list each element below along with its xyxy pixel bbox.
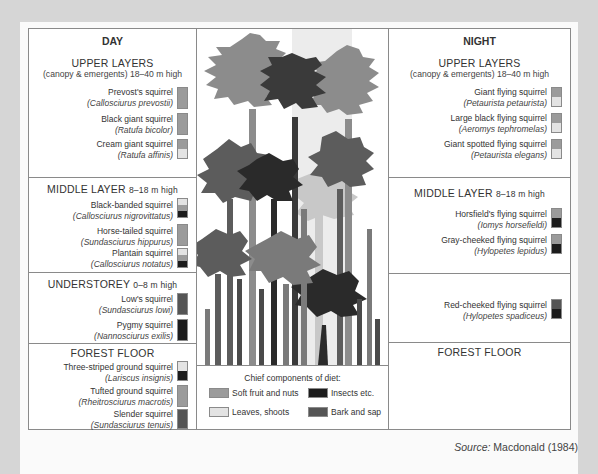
forest-illustration-panel: Chief components of diet: Soft fruit and… (197, 29, 388, 429)
scientific-name: (Rheitrosciurus macrotis) (79, 397, 173, 408)
day-title: DAY (29, 35, 196, 47)
layer-title: UPPER LAYERS (29, 57, 196, 69)
common-name: Pygmy squirrel (94, 320, 173, 331)
layer-title: FOREST FLOOR (29, 347, 196, 359)
common-name: Horse-tailed squirrel (81, 226, 173, 237)
diet-swatch (177, 224, 188, 246)
layer-title: MIDDLE LAYER 8–18 m high (29, 183, 196, 195)
scientific-name: (Callosciurus nigrovittatus) (73, 211, 173, 222)
diet-swatch (177, 248, 188, 268)
day-upper-layers: DAY UPPER LAYERS (canopy & emergents) 18… (29, 29, 196, 178)
common-name: Cream giant squirrel (96, 139, 173, 150)
common-name: Tufted ground squirrel (79, 386, 173, 397)
day-panel: DAY UPPER LAYERS (canopy & emergents) 18… (29, 29, 197, 429)
diet-swatch (177, 293, 188, 315)
scientific-name: (Hylopetes spadiceus) (444, 311, 547, 322)
diet-swatch (177, 385, 188, 407)
diagram-frame: DAY UPPER LAYERS (canopy & emergents) 18… (28, 28, 571, 430)
layer-title: MIDDLE LAYER 8–18 m high (389, 187, 570, 199)
diet-swatch (177, 113, 188, 135)
scientific-name: (Aeromys tephromelas) (451, 124, 547, 135)
day-middle-layer: MIDDLE LAYER 8–18 m high Black-banded sq… (29, 178, 196, 273)
common-name: Horsfield's flying squirrel (455, 209, 547, 220)
scientific-name: (Callosciurus notatus) (91, 259, 173, 270)
diet-swatch (551, 234, 562, 254)
scientific-name: (Nannosciurus exilis) (94, 331, 173, 342)
forest-illustration (197, 29, 388, 365)
legend-item-insects: Insects etc. (308, 388, 374, 398)
diet-swatch (177, 139, 188, 159)
scientific-name: (Sundasciurus tenuis) (91, 420, 173, 431)
diet-swatch (177, 87, 188, 109)
scientific-name: (Callosciurus prevostii) (87, 98, 173, 109)
diet-swatch (551, 139, 562, 159)
night-upper-layers: NIGHT UPPER LAYERS (canopy & emergents) … (389, 29, 570, 178)
common-name: Giant flying squirrel (463, 87, 547, 98)
diet-swatch (177, 409, 188, 429)
diet-swatch (551, 299, 562, 319)
common-name: Black giant squirrel (101, 114, 173, 125)
common-name: Large black flying squirrel (451, 113, 547, 124)
scientific-name: (Hylopetes lepidus) (441, 246, 547, 257)
common-name: Plantain squirrel (91, 248, 173, 259)
common-name: Gray-cheeked flying squirrel (441, 235, 547, 246)
common-name: Three-striped ground squirrel (63, 362, 173, 373)
diet-swatch (177, 361, 188, 381)
night-forest-floor: FOREST FLOOR (389, 343, 570, 429)
layer-height: (canopy & emergents) 18–40 m high (29, 69, 196, 79)
common-name: Slender squirrel (91, 409, 173, 420)
legend-item-leaves: Leaves, shoots (209, 407, 289, 417)
source-credit: Source: Macdonald (1984) (454, 441, 578, 453)
scientific-name: (Petaurista petaurista) (463, 98, 547, 109)
night-title: NIGHT (389, 35, 570, 47)
layer-title: UNDERSTOREY 0–8 m high (29, 278, 196, 290)
scientific-name: (Lariscus insignis) (63, 373, 173, 384)
legend-title: Chief components of diet: (197, 373, 388, 383)
common-name: Low's squirrel (99, 294, 173, 305)
day-understorey: UNDERSTOREY 0–8 m high Low's squirrel(Su… (29, 273, 196, 344)
day-forest-floor: FOREST FLOOR Three-striped ground squirr… (29, 344, 196, 429)
diet-swatch (177, 319, 188, 341)
night-panel: NIGHT UPPER LAYERS (canopy & emergents) … (388, 29, 570, 429)
common-name: Red-cheeked flying squirrel (444, 300, 547, 311)
scientific-name: (Iomys horsefieldi) (455, 220, 547, 231)
common-name: Prevost's squirrel (87, 87, 173, 98)
diet-legend: Chief components of diet: Soft fruit and… (197, 365, 388, 429)
scientific-name: (Sundasciurus hippurus) (81, 237, 173, 248)
diet-swatch (551, 208, 562, 228)
diet-swatch (551, 113, 562, 133)
scientific-name: (Ratufa affinis) (96, 150, 173, 161)
diet-swatch (177, 198, 188, 218)
legend-item-bark: Bark and sap (308, 407, 381, 417)
common-name: Giant spotted flying squirrel (444, 139, 547, 150)
layer-title: FOREST FLOOR (389, 346, 570, 358)
forest-trees-graphic (197, 29, 388, 365)
scientific-name: (Ratufa bicolor) (101, 125, 173, 136)
common-name: Black-banded squirrel (73, 200, 173, 211)
diet-swatch (551, 87, 562, 107)
night-middle-layer: MIDDLE LAYER 8–18 m high Horsfield's fly… (389, 178, 570, 274)
night-understorey: Red-cheeked flying squirrel(Hylopetes sp… (389, 274, 570, 343)
layer-height: (canopy & emergents) 18–40 m high (389, 69, 570, 79)
layer-title: UPPER LAYERS (389, 57, 570, 69)
scientific-name: (Sundasciurus lowi) (99, 305, 173, 316)
legend-item-fruit: Soft fruit and nuts (209, 388, 299, 398)
scientific-name: (Petaurista elegans) (444, 150, 547, 161)
